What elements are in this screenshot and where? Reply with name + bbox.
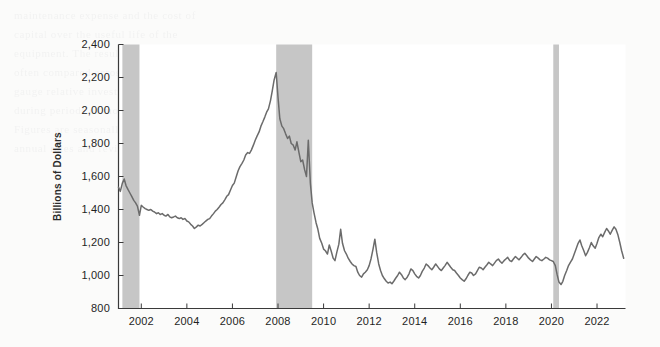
recession-band — [122, 45, 139, 309]
y-tick-label: 2,200 — [62, 71, 110, 83]
x-tick-label: 2004 — [164, 315, 210, 327]
x-tick-label: 2012 — [346, 315, 392, 327]
x-tick-label: 2002 — [118, 315, 164, 327]
x-tick-label: 2014 — [392, 315, 438, 327]
x-tick-label: 2006 — [209, 315, 255, 327]
y-tick-label: 1,400 — [62, 203, 110, 215]
y-tick-label: 2,400 — [62, 38, 110, 50]
x-tick-label: 2022 — [574, 315, 620, 327]
y-tick-label: 1,800 — [62, 137, 110, 149]
y-tick-label: 2,000 — [62, 104, 110, 116]
plot-background — [119, 45, 626, 309]
y-tick-label: 1,000 — [62, 269, 110, 281]
x-tick-label: 2018 — [483, 315, 529, 327]
x-tick-label: 2010 — [301, 315, 347, 327]
x-tick-label: 2016 — [437, 315, 483, 327]
chart-figure: Billions of Dollars 8001,0001,2001,4001,… — [0, 0, 660, 347]
y-tick-label: 1,600 — [62, 170, 110, 182]
y-tick-label: 1,200 — [62, 236, 110, 248]
y-tick-label: 800 — [62, 302, 110, 314]
x-tick-label: 2020 — [528, 315, 574, 327]
x-tick-label: 2008 — [255, 315, 301, 327]
